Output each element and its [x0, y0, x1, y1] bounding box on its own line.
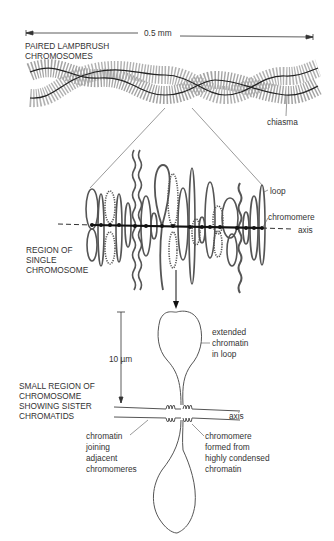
joining-label-line3: adjacent: [86, 453, 117, 464]
title-region-line2: SINGLE: [26, 255, 56, 266]
loop-pointer: [264, 190, 268, 192]
extended-chromatin-label-line3: in loop: [212, 349, 236, 360]
axis-label-bottom: axis: [229, 411, 244, 422]
title-paired-lampbrush-line2: CHROMOSOMES: [25, 51, 93, 62]
title-paired-lampbrush-line1: PAIRED LAMPBRUSH: [25, 41, 109, 52]
scale-label-10um: 10 µm: [109, 354, 132, 365]
extended-chromatin-label-line1: extended: [212, 327, 246, 338]
loop-label: loop: [270, 186, 286, 197]
scale-label-0-5mm: 0.5 mm: [144, 28, 172, 39]
title-small-region-line1: SMALL REGION OF: [19, 381, 95, 392]
chromomere-label: chromomere: [268, 212, 315, 223]
title-region-line3: CHROMOSOME: [26, 265, 88, 276]
chromomere-condensed-label-line3: highly condensed: [205, 453, 270, 464]
title-small-region-line3: SHOWING SISTER: [19, 401, 92, 412]
joining-label-line1: chromatin: [86, 431, 122, 442]
axis-label-middle: axis: [298, 225, 313, 236]
extended-chromatin-label-line2: chromatin: [212, 338, 248, 349]
title-region-line1: REGION OF: [26, 245, 73, 256]
down-arrow: [173, 270, 179, 309]
chromomere-condensed-label-line1: chromomere: [205, 431, 252, 442]
chromomere-condensed-pointer: [192, 424, 204, 436]
chromomere-condensed-label-line4: chromatin: [205, 464, 241, 475]
joining-chromatin-pointer: [130, 420, 148, 435]
magnification-lines: [90, 108, 263, 188]
title-small-region-line4: CHROMATIDS: [19, 411, 74, 422]
chiasma-pointer: [286, 95, 287, 116]
title-small-region-line2: CHROMOSOME: [19, 391, 81, 402]
chiasma-label: chiasma: [267, 117, 298, 128]
paired-lampbrush-chromosomes: [30, 68, 318, 98]
joining-label-line4: chromomeres: [86, 464, 137, 475]
chromomere-condensed-label-line2: formed from: [205, 442, 250, 453]
joining-label-line2: joining: [86, 442, 110, 453]
